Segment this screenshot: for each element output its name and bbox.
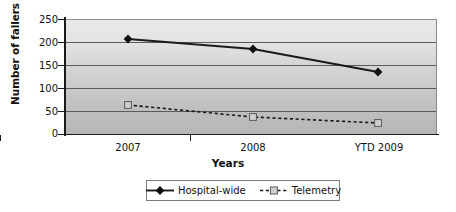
gridline-200 — [66, 42, 436, 43]
dashed-line-square-marker-icon — [259, 185, 289, 196]
gridline-50 — [66, 111, 436, 112]
x-axis-line — [64, 134, 439, 135]
y-tick-label-50: 50 — [24, 107, 58, 117]
legend-entry-hospital-wide[interactable]: Hospital-wide — [145, 185, 246, 196]
solid-line-diamond-marker-icon — [145, 185, 175, 196]
y-tick-label-0: 0 — [24, 129, 58, 139]
x-tick-mark-2 — [0, 135, 1, 141]
plot-top-border — [66, 19, 436, 20]
y-tick-label-150: 150 — [24, 61, 58, 71]
legend-entry-telemetry[interactable]: Telemetry — [259, 185, 341, 196]
x-axis-title: Years — [0, 157, 456, 169]
x-tick-label-ytd-2009: YTD 2009 — [348, 142, 410, 153]
x-tick-mark-1 — [190, 135, 191, 141]
gridline-150 — [66, 65, 436, 66]
y-tick-label-200: 200 — [24, 38, 58, 48]
chart-legend: Hospital-wide Telemetry — [146, 180, 340, 201]
y-tick-label-250: 250 — [24, 15, 58, 25]
x-tick-label-2008: 2008 — [228, 142, 278, 153]
y-axis-line — [64, 17, 66, 136]
falls-line-chart: Number of fallers 250 200 150 100 50 0 2… — [0, 0, 456, 212]
y-axis-tick-labels: 250 200 150 100 50 0 — [18, 0, 58, 212]
legend-label-hospital-wide: Hospital-wide — [178, 185, 246, 196]
gridline-100 — [66, 88, 436, 89]
x-tick-label-2007: 2007 — [103, 142, 153, 153]
y-tick-label-100: 100 — [24, 84, 58, 94]
legend-label-telemetry: Telemetry — [292, 185, 341, 196]
plot-area — [66, 19, 437, 134]
